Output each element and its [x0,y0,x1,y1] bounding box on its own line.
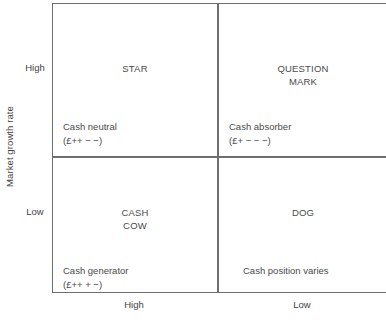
quadrant-question-mark-title: QUESTION MARK [219,62,386,88]
quadrant-dog[interactable]: DOG Cash position varies [219,158,386,294]
quadrant-cash-cow-title-line1: CASH [121,207,148,218]
y-axis-tick-high: High [18,62,52,73]
x-axis-title [52,318,386,326]
quadrant-star-title-line1: STAR [122,63,147,74]
quadrant-dog-note-text: Cash position varies [243,265,329,276]
x-axis-tick-low: Low [218,299,386,310]
quadrant-question-mark[interactable]: QUESTION MARK Cash absorber (£+ − − −) [219,4,386,156]
quadrant-question-mark-title-line2: MARK [289,76,317,87]
quadrant-star[interactable]: STAR Cash neutral (£++ − −) [53,4,217,156]
quadrant-star-note: Cash neutral (£++ − −) [63,120,117,147]
quadrant-dog-note: Cash position varies [243,264,329,278]
quadrant-dog-title-line1: DOG [292,207,314,218]
quadrant-star-title: STAR [53,62,217,75]
y-axis-title-label: Market growth rate [4,106,15,187]
quadrant-dog-title: DOG [219,206,386,219]
quadrant-cash-cow-note: Cash generator (£++ + −) [63,264,128,291]
y-axis-title: Market growth rate [0,0,18,293]
quadrant-question-mark-note-text: Cash absorber [229,121,291,132]
quadrant-cash-cow[interactable]: CASH COW Cash generator (£++ + −) [53,158,217,294]
quadrant-cash-cow-note-text: Cash generator [63,265,128,276]
quadrant-question-mark-title-line1: QUESTION [277,63,328,74]
quadrant-star-note-text: Cash neutral [63,121,117,132]
y-axis-tick-low: Low [18,206,52,217]
quadrant-star-symbols: (£++ − −) [63,134,117,148]
bcg-matrix: STAR Cash neutral (£++ − −) QUESTION MAR… [52,3,386,293]
quadrant-cash-cow-title-line2: COW [123,220,147,231]
quadrant-question-mark-symbols: (£+ − − −) [229,134,291,148]
quadrant-question-mark-note: Cash absorber (£+ − − −) [229,120,291,147]
x-axis-tick-high: High [52,299,216,310]
quadrant-cash-cow-symbols: (£++ + −) [63,278,128,292]
quadrant-cash-cow-title: CASH COW [53,206,217,232]
